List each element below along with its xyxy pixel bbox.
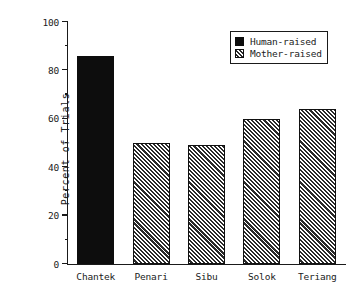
legend-label-human-raised: Human-raised <box>250 37 316 47</box>
y-tick-minor <box>65 142 69 143</box>
bar-teriang <box>299 109 336 264</box>
bar-chantek <box>77 56 114 264</box>
x-tick-label-solok: Solok <box>248 272 276 282</box>
y-tick-label: 80 <box>48 66 59 76</box>
y-tick-major <box>62 263 68 264</box>
x-tick-label-teriang: Teriang <box>298 272 337 282</box>
bar-sibu <box>188 145 225 264</box>
legend-label-mother-raised: Mother-raised <box>250 49 322 59</box>
y-tick-minor <box>65 190 69 191</box>
legend-entry-mother-raised: Mother-raised <box>235 48 322 59</box>
legend-entry-human-raised: Human-raised <box>235 36 322 47</box>
y-tick-label: 0 <box>53 259 59 269</box>
y-tick-major <box>62 166 68 167</box>
y-tick-major <box>62 21 68 22</box>
y-tick-label: 20 <box>48 211 59 221</box>
x-tick-label-chantek: Chantek <box>76 272 115 282</box>
bar-chart-figure: Percent of Trials 020406080100 Human-rai… <box>0 0 360 297</box>
y-tick-label: 40 <box>48 162 59 172</box>
y-tick-minor <box>65 93 69 94</box>
x-tick-label-penari: Penari <box>135 272 168 282</box>
y-tick-label: 100 <box>42 17 59 27</box>
y-tick-major <box>62 69 68 70</box>
y-tick-minor <box>65 239 69 240</box>
chart-legend: Human-raised Mother-raised <box>230 31 328 64</box>
x-tick-label-sibu: Sibu <box>195 272 217 282</box>
bar-solok <box>243 119 280 264</box>
y-tick-minor <box>65 45 69 46</box>
y-tick-label: 60 <box>48 114 59 124</box>
legend-swatch-hatch-icon <box>235 49 244 58</box>
bar-penari <box>133 143 170 264</box>
legend-swatch-solid-icon <box>235 37 244 46</box>
y-tick-major <box>62 214 68 215</box>
y-tick-major <box>62 118 68 119</box>
